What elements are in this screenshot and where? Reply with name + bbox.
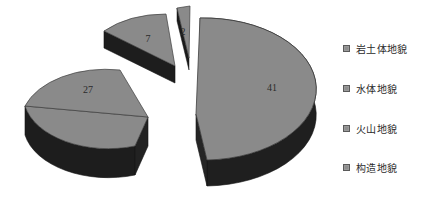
legend-item-label: 构造地貌 bbox=[356, 160, 397, 175]
legend-item-label: 水体地貌 bbox=[356, 81, 397, 96]
pie-slice-41[interactable]: 41 bbox=[196, 18, 316, 186]
legend-swatch-icon bbox=[343, 45, 350, 52]
pie-slice-27-label: 27 bbox=[83, 84, 93, 95]
legend-item-label: 火山地貌 bbox=[356, 121, 397, 136]
legend-item-0[interactable]: 岩土体地貌 bbox=[343, 41, 408, 55]
legend-swatch-icon bbox=[343, 164, 350, 171]
pie-chart-svg: 27 7 2 41 bbox=[0, 0, 340, 200]
pie-slice-2-label: 2 bbox=[181, 26, 186, 37]
legend-item-3[interactable]: 构造地貌 bbox=[343, 160, 397, 174]
pie-slice-7-label: 7 bbox=[146, 33, 151, 44]
pie-chart-screenshot: 27 7 2 41 bbox=[0, 0, 430, 200]
legend-item-label: 岩土体地貌 bbox=[356, 41, 408, 56]
pie-slice-41-label: 41 bbox=[267, 82, 277, 93]
pie-slice-27[interactable]: 27 bbox=[25, 69, 148, 177]
legend-swatch-icon bbox=[343, 125, 350, 132]
chart-legend: 岩土体地貌 水体地貌 火山地貌 构造地貌 bbox=[343, 0, 430, 200]
legend-swatch-icon bbox=[343, 85, 350, 92]
legend-item-2[interactable]: 火山地貌 bbox=[343, 121, 397, 135]
pie-slice-2[interactable]: 2 bbox=[177, 6, 190, 70]
legend-item-1[interactable]: 水体地貌 bbox=[343, 81, 397, 95]
chart-plot-area: 27 7 2 41 bbox=[0, 0, 340, 200]
